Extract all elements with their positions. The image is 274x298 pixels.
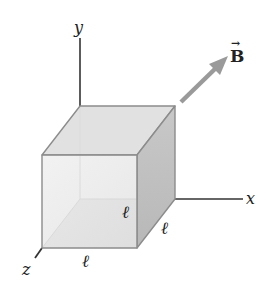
edge-length-label-depth: ℓ [161,218,168,238]
vector-arrow-symbol: → [231,37,240,50]
edge-length-label-front-right: ℓ [122,202,129,222]
cube-magnetic-field-diagram: y x z B → ℓ ℓ ℓ [0,0,274,298]
magnetic-field-arrow [181,56,228,102]
diagram-svg: y x z B → ℓ ℓ ℓ [0,0,274,298]
y-axis-label: y [73,18,84,37]
z-axis-label: z [21,260,31,279]
edge-length-label-front-bottom: ℓ [82,251,89,271]
z-axis [35,248,42,258]
x-axis-label: x [246,189,255,208]
